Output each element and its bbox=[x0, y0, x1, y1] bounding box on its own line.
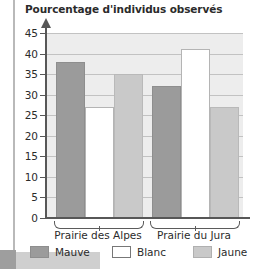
ytick-label-15: 15 bbox=[4, 150, 38, 162]
bar-jura-jaune bbox=[210, 107, 239, 218]
ytick-label-25: 25 bbox=[4, 109, 38, 121]
ytick-label-45: 45 bbox=[4, 27, 38, 39]
legend-label-blanc: Blanc bbox=[137, 246, 166, 258]
ytick-label-30: 30 bbox=[4, 89, 38, 101]
ytick-mark-20 bbox=[40, 136, 46, 137]
ytick-mark-15 bbox=[40, 156, 46, 157]
legend-swatch-jaune-icon bbox=[193, 246, 212, 258]
ytick-mark-30 bbox=[40, 95, 46, 96]
chart-legend: Mauve Blanc Jaune bbox=[30, 243, 256, 261]
ytick-mark-0 bbox=[40, 218, 46, 219]
ytick-mark-5 bbox=[40, 197, 46, 198]
group-bracket-jura bbox=[150, 221, 240, 229]
group-bracket-alpes bbox=[54, 221, 144, 229]
ytick-mark-40 bbox=[40, 54, 46, 55]
legend-swatch-blanc-icon bbox=[112, 246, 131, 258]
ytick-label-35: 35 bbox=[4, 68, 38, 80]
chart-title: Pourcentage d'individus observés bbox=[25, 3, 222, 15]
bar-alpes-blanc bbox=[85, 107, 114, 218]
legend-label-mauve: Mauve bbox=[55, 246, 90, 258]
x-axis-group-label-jura: Prairie du Jura bbox=[142, 229, 246, 241]
x-axis-group-label-alpes: Prairie des Alpes bbox=[44, 229, 152, 241]
bar-alpes-jaune bbox=[114, 74, 143, 218]
y-axis-arrow-icon bbox=[41, 18, 51, 28]
legend-item-jaune: Jaune bbox=[193, 243, 247, 261]
bar-jura-blanc bbox=[181, 49, 210, 218]
x-axis-line bbox=[45, 217, 250, 219]
legend-label-jaune: Jaune bbox=[218, 246, 247, 258]
bar-jura-mauve bbox=[152, 86, 181, 218]
ytick-label-0: 0 bbox=[4, 212, 38, 224]
ytick-label-40: 40 bbox=[4, 48, 38, 60]
bar-chart-figure: Pourcentage d'individus observés 45 40 bbox=[0, 0, 261, 269]
plot-area bbox=[47, 33, 243, 218]
ytick-mark-25 bbox=[40, 115, 46, 116]
ytick-mark-10 bbox=[40, 177, 46, 178]
y-axis-tick-labels: 45 40 35 30 25 20 15 10 5 0 bbox=[0, 0, 38, 269]
gridline-45 bbox=[47, 33, 243, 34]
bar-alpes-mauve bbox=[56, 62, 85, 218]
ytick-label-5: 5 bbox=[4, 191, 38, 203]
legend-item-blanc: Blanc bbox=[112, 243, 166, 261]
ytick-mark-45 bbox=[40, 33, 46, 34]
ytick-label-20: 20 bbox=[4, 130, 38, 142]
legend-item-mauve: Mauve bbox=[30, 243, 90, 261]
ytick-mark-35 bbox=[40, 74, 46, 75]
gridline-40 bbox=[47, 54, 243, 55]
ytick-label-10: 10 bbox=[4, 171, 38, 183]
legend-swatch-mauve-icon bbox=[30, 246, 49, 258]
